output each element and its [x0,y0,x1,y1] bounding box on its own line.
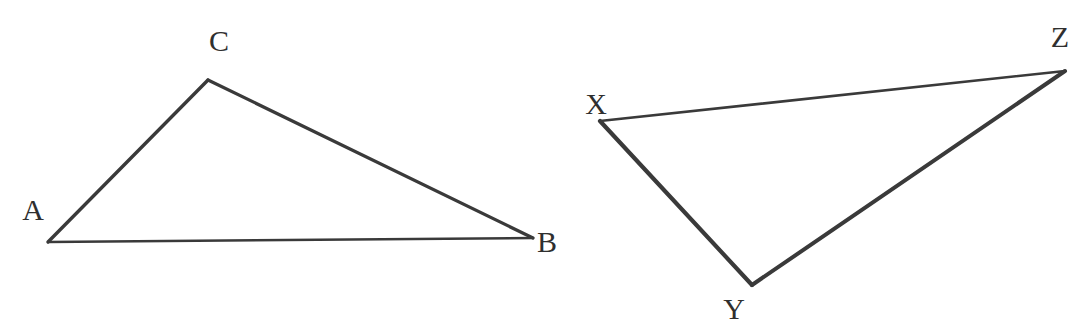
vertex-label-y: Y [723,294,745,324]
triangle-xyz-group [600,71,1065,285]
vertex-label-b: B [537,227,557,257]
edge-ac [48,80,208,242]
vertex-label-z: Z [1051,22,1069,52]
vertex-label-c: C [209,26,229,56]
figure-canvas: A B C X Y Z [0,0,1084,330]
triangle-abc-group [48,80,533,242]
edge-ab [48,238,533,242]
edge-xy [600,121,752,285]
edge-yz [752,71,1065,285]
vertex-label-a: A [22,195,44,225]
vertex-label-x: X [585,89,607,119]
geometry-layer [0,0,1084,330]
edge-xz [600,71,1065,121]
edge-cb [208,80,533,238]
